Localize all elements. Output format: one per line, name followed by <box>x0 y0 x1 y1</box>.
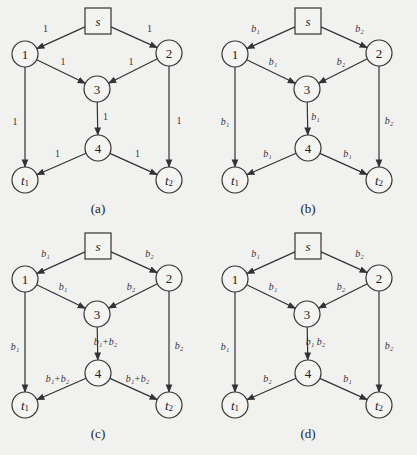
node-label-n4: 4 <box>305 141 312 156</box>
node-label-n3: 3 <box>304 82 311 97</box>
edge-label-4-to-t2: b₁+b₂ <box>126 373 150 384</box>
edge-label-1-to-t1: b₁ <box>221 116 229 127</box>
edge-label-3-to-4: b₁+b₂ <box>94 336 118 347</box>
panel-caption: (d) <box>300 426 315 441</box>
edge-label-4-to-t1: b₂ <box>263 373 272 384</box>
edge-label-1-to-t1: 1 <box>13 116 18 127</box>
edge-label-1-to-3: b₁ <box>269 56 277 67</box>
node-label-n3: 3 <box>94 82 101 97</box>
edge-label-3-to-4: b₁ b₂ <box>306 336 326 347</box>
panel-caption: (a) <box>91 201 105 216</box>
node-label-n1: 1 <box>22 47 29 62</box>
edge-label-s-to-2: b₂ <box>145 248 154 259</box>
edge-label-2-to-3: b₂ <box>127 281 136 292</box>
node-label-n2: 2 <box>166 271 173 286</box>
edge-label-s-to-1: b₁ <box>41 248 49 259</box>
edge-label-s-to-1: b₁ <box>251 248 259 259</box>
node-label-s: s <box>95 14 100 29</box>
edge-label-s-to-2: 1 <box>147 23 152 34</box>
edge-label-s-to-1: b₁ <box>251 23 259 34</box>
edge-4-to-t1 <box>37 153 86 175</box>
node-label-n4: 4 <box>305 366 312 381</box>
figure-canvas: 111111111s1234t1t2(a) b₁b₂b₁b₂b₁b₂b₁b₁b₁… <box>0 0 417 455</box>
edge-label-4-to-t1: b₁+b₂ <box>46 373 70 384</box>
edge-label-1-to-t1: b₁ <box>221 341 229 352</box>
node-label-s: s <box>305 239 310 254</box>
node-label-n1: 1 <box>232 47 239 62</box>
edge-label-4-to-t1: 1 <box>55 148 60 159</box>
edge-label-2-to-t2: b₂ <box>175 340 184 351</box>
edge-label-2-to-3: b₂ <box>337 56 346 67</box>
edge-label-4-to-t1: b₁ <box>263 148 271 159</box>
node-label-n3: 3 <box>94 307 101 322</box>
edge-label-4-to-t2: b₁ <box>343 148 351 159</box>
edge-label-3-to-4: 1 <box>103 111 108 122</box>
edge-label-2-to-t2: 1 <box>177 115 182 126</box>
panel-caption: (b) <box>300 201 315 216</box>
edge-label-3-to-4: b₁ <box>311 111 319 122</box>
butterfly-network-figure: 111111111s1234t1t2(a) b₁b₂b₁b₂b₁b₂b₁b₁b₁… <box>0 0 417 455</box>
node-label-n1: 1 <box>232 272 239 287</box>
edge-3-to-4 <box>97 102 98 135</box>
node-label-n1: 1 <box>22 272 29 287</box>
node-label-s: s <box>305 14 310 29</box>
panel-c: b₁b₂b₁b₂b₁b₂b₁+b₂b₁+b₂b₁+b₂s1234t1t2(c) <box>11 233 184 441</box>
edge-label-2-to-t2: b₂ <box>385 340 394 351</box>
edge-label-s-to-2: b₂ <box>355 248 364 259</box>
node-label-n2: 2 <box>376 46 383 61</box>
panel-caption: (c) <box>91 426 105 441</box>
panel-d: b₁b₂b₁b₂b₁b₂b₁ b₂b₂b₁s1234t1t2(d) <box>221 233 394 441</box>
edge-label-s-to-2: b₂ <box>355 23 364 34</box>
edge-label-1-to-3: b₁ <box>59 281 67 292</box>
edge-4-to-t2 <box>110 153 157 174</box>
edge-label-2-to-3: 1 <box>129 56 134 67</box>
edge-3-to-4 <box>307 102 308 135</box>
edge-label-4-to-t2: b₁ <box>343 373 351 384</box>
node-label-n4: 4 <box>95 366 102 381</box>
edge-label-2-to-t2: b₂ <box>385 115 394 126</box>
node-label-n3: 3 <box>304 307 311 322</box>
panel-b: b₁b₂b₁b₂b₁b₂b₁b₁b₁s1234t1t2(b) <box>221 8 394 216</box>
edge-label-1-to-3: b₁ <box>269 281 277 292</box>
panel-a: 111111111s1234t1t2(a) <box>12 8 182 216</box>
node-label-n2: 2 <box>166 46 173 61</box>
edge-label-4-to-t2: 1 <box>135 148 140 159</box>
edge-label-1-to-3: 1 <box>61 56 66 67</box>
edge-label-s-to-1: 1 <box>43 23 48 34</box>
edge-label-2-to-3: b₂ <box>337 281 346 292</box>
node-label-n2: 2 <box>376 271 383 286</box>
edge-label-1-to-t1: b₁ <box>11 341 19 352</box>
node-label-s: s <box>95 239 100 254</box>
node-label-n4: 4 <box>95 141 102 156</box>
